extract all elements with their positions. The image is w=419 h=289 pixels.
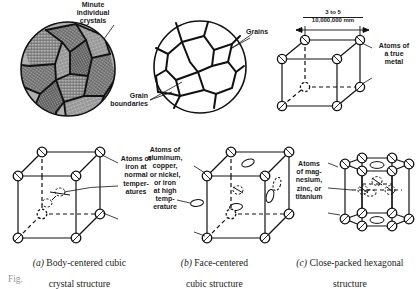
caption-panel-c: (c) Close-packed hexagonal structure bbox=[276, 247, 419, 289]
callout-panel-c: Atoms of mag- nesium, zinc, or titanium bbox=[288, 160, 330, 201]
label-grain-boundaries: Grain boundaries bbox=[100, 92, 148, 108]
caption-marker-c: (c) bbox=[296, 257, 307, 268]
caption-text-a2: crystal structure bbox=[49, 278, 111, 289]
caption-marker-a: (a) bbox=[33, 257, 44, 268]
caption-text-b1: Face-centered bbox=[192, 257, 248, 268]
micrograph-grains bbox=[150, 21, 252, 113]
callout-panel-b: Atoms of aluminum, copper, or nickel, or… bbox=[139, 146, 191, 212]
unit-cell-bcc bbox=[13, 147, 118, 243]
caption-text-c2: structure bbox=[333, 278, 367, 289]
unit-cell-hcp bbox=[328, 153, 414, 231]
callout-true-metal: Atoms of a true metal bbox=[370, 42, 418, 67]
label-grains: Grains bbox=[246, 28, 268, 36]
label-minute-individual-crystals: Minute individual crystals bbox=[58, 1, 128, 26]
caption-marker-b: (b) bbox=[181, 257, 192, 268]
unit-cell-fcc bbox=[177, 147, 294, 243]
dimension-numerator: 3 to 5 bbox=[300, 9, 366, 16]
caption-text-b2: cubic structure bbox=[186, 278, 243, 289]
dimension-denominator: 10,000,000 mm bbox=[298, 17, 368, 24]
caption-panel-b: (b) Face-centered cubic structure bbox=[148, 247, 276, 289]
figure-number-fragment: Fig. bbox=[8, 274, 23, 284]
dimension-line bbox=[296, 26, 369, 36]
caption-text-c1: Close-packed hexagonal bbox=[307, 257, 403, 268]
caption-text-a1: Body-centered cubic bbox=[44, 257, 126, 268]
caption-panel-a: (a) Body-centered cubic crystal structur… bbox=[2, 247, 152, 289]
unit-cell-true-metal bbox=[277, 26, 372, 111]
